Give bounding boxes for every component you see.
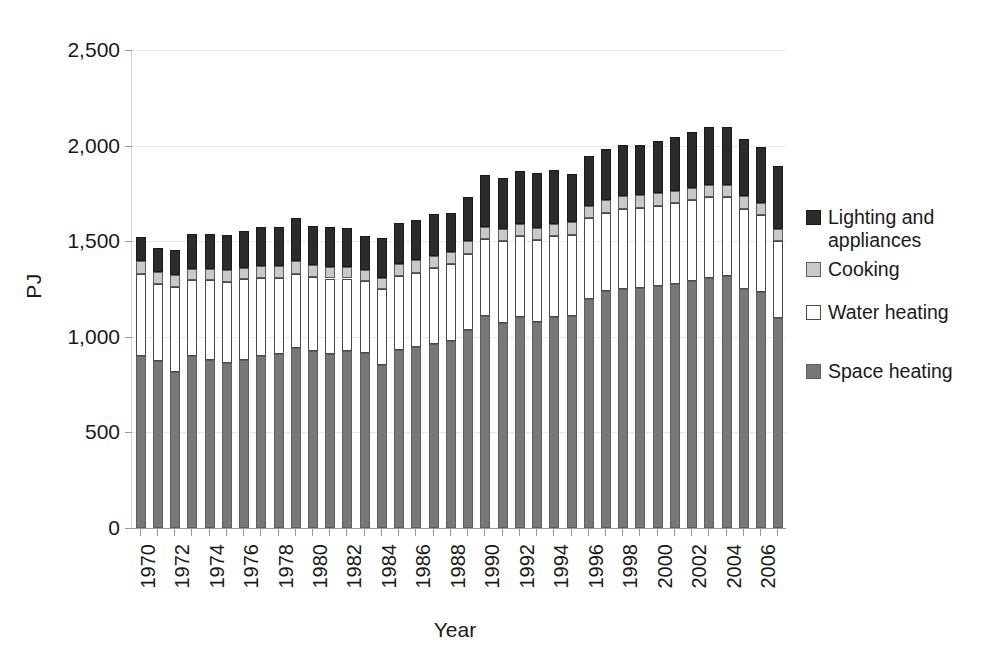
bar-1972[interactable] — [170, 50, 180, 528]
segment-water — [205, 280, 215, 359]
bar-1988[interactable] — [446, 50, 456, 528]
segment-space — [291, 348, 301, 528]
segment-space — [635, 288, 645, 528]
segment-cooking — [256, 266, 266, 278]
segment-light — [687, 132, 697, 187]
bar-1982[interactable] — [342, 50, 352, 528]
bar-1993[interactable] — [532, 50, 542, 528]
segment-water — [446, 264, 456, 340]
bar-2006[interactable] — [756, 50, 766, 528]
bar-1980[interactable] — [308, 50, 318, 528]
legend-item-space[interactable]: Space heating — [806, 360, 986, 383]
bar-1984[interactable] — [377, 50, 387, 528]
segment-water — [222, 282, 232, 362]
bar-1971[interactable] — [153, 50, 163, 528]
segment-light — [274, 227, 284, 266]
segment-light — [498, 178, 508, 229]
bar-1978[interactable] — [274, 50, 284, 528]
bar-1981[interactable] — [325, 50, 335, 528]
legend-item-water[interactable]: Water heating — [806, 301, 986, 324]
segment-space — [446, 341, 456, 528]
bar-1989[interactable] — [463, 50, 473, 528]
segment-cooking — [722, 185, 732, 197]
segment-cooking — [480, 227, 490, 239]
bar-1974[interactable] — [205, 50, 215, 528]
bar-1979[interactable] — [291, 50, 301, 528]
x-tick-label: 1990 — [481, 544, 504, 589]
segment-light — [515, 171, 525, 224]
segment-space — [773, 318, 783, 528]
x-tick-mark — [519, 528, 520, 536]
segment-cooking — [773, 229, 783, 241]
segment-light — [342, 228, 352, 266]
segment-light — [411, 220, 421, 260]
bar-1997[interactable] — [601, 50, 611, 528]
segment-cooking — [704, 185, 714, 197]
segment-space — [601, 291, 611, 528]
segment-cooking — [360, 270, 370, 282]
x-axis-line — [131, 528, 786, 529]
bar-1998[interactable] — [618, 50, 628, 528]
bar-1973[interactable] — [187, 50, 197, 528]
segment-water — [153, 284, 163, 360]
bar-1990[interactable] — [480, 50, 490, 528]
segment-water — [584, 218, 594, 298]
segment-light — [773, 166, 783, 229]
bar-2003[interactable] — [704, 50, 714, 528]
segment-light — [153, 248, 163, 272]
bar-1985[interactable] — [394, 50, 404, 528]
bar-2007[interactable] — [773, 50, 783, 528]
segment-water — [239, 279, 249, 359]
bar-1976[interactable] — [239, 50, 249, 528]
segment-water — [756, 215, 766, 291]
bar-1999[interactable] — [635, 50, 645, 528]
bar-1986[interactable] — [411, 50, 421, 528]
bar-1992[interactable] — [515, 50, 525, 528]
segment-space — [274, 354, 284, 528]
x-tick-label: 1978 — [275, 544, 298, 589]
segment-cooking — [687, 188, 697, 200]
segment-space — [480, 316, 490, 528]
x-tick-label: 1988 — [447, 544, 470, 589]
bar-2005[interactable] — [739, 50, 749, 528]
segment-cooking — [411, 260, 421, 272]
legend-item-cooking[interactable]: Cooking — [806, 258, 986, 281]
bar-2001[interactable] — [670, 50, 680, 528]
segment-space — [653, 286, 663, 528]
segment-space — [618, 289, 628, 528]
bar-1991[interactable] — [498, 50, 508, 528]
segment-light — [480, 175, 490, 227]
legend-item-light[interactable]: Lighting and appliances — [806, 206, 986, 252]
y-tick-mark — [125, 337, 132, 338]
bar-1977[interactable] — [256, 50, 266, 528]
bar-1987[interactable] — [429, 50, 439, 528]
segment-light — [653, 141, 663, 194]
x-tick-label: 1972 — [171, 544, 194, 589]
y-tick-mark — [125, 432, 132, 433]
segment-light — [584, 156, 594, 206]
segment-light — [463, 197, 473, 241]
bar-1983[interactable] — [360, 50, 370, 528]
segment-water — [722, 197, 732, 275]
segment-cooking — [515, 224, 525, 236]
segment-light — [756, 147, 766, 203]
segment-light — [170, 250, 180, 275]
bar-2004[interactable] — [722, 50, 732, 528]
x-tick-mark — [622, 528, 623, 536]
segment-space — [670, 284, 680, 528]
bar-1975[interactable] — [222, 50, 232, 528]
x-tick-mark — [588, 528, 589, 536]
segment-light — [722, 127, 732, 184]
x-tick-mark — [433, 528, 434, 536]
bar-1996[interactable] — [584, 50, 594, 528]
segment-space — [256, 356, 266, 528]
bar-1995[interactable] — [567, 50, 577, 528]
bar-1970[interactable] — [136, 50, 146, 528]
segment-cooking — [325, 267, 335, 279]
segment-water — [670, 203, 680, 284]
bar-2002[interactable] — [687, 50, 697, 528]
segment-water — [601, 213, 611, 291]
segment-cooking — [222, 270, 232, 282]
bar-1994[interactable] — [549, 50, 559, 528]
bar-2000[interactable] — [653, 50, 663, 528]
